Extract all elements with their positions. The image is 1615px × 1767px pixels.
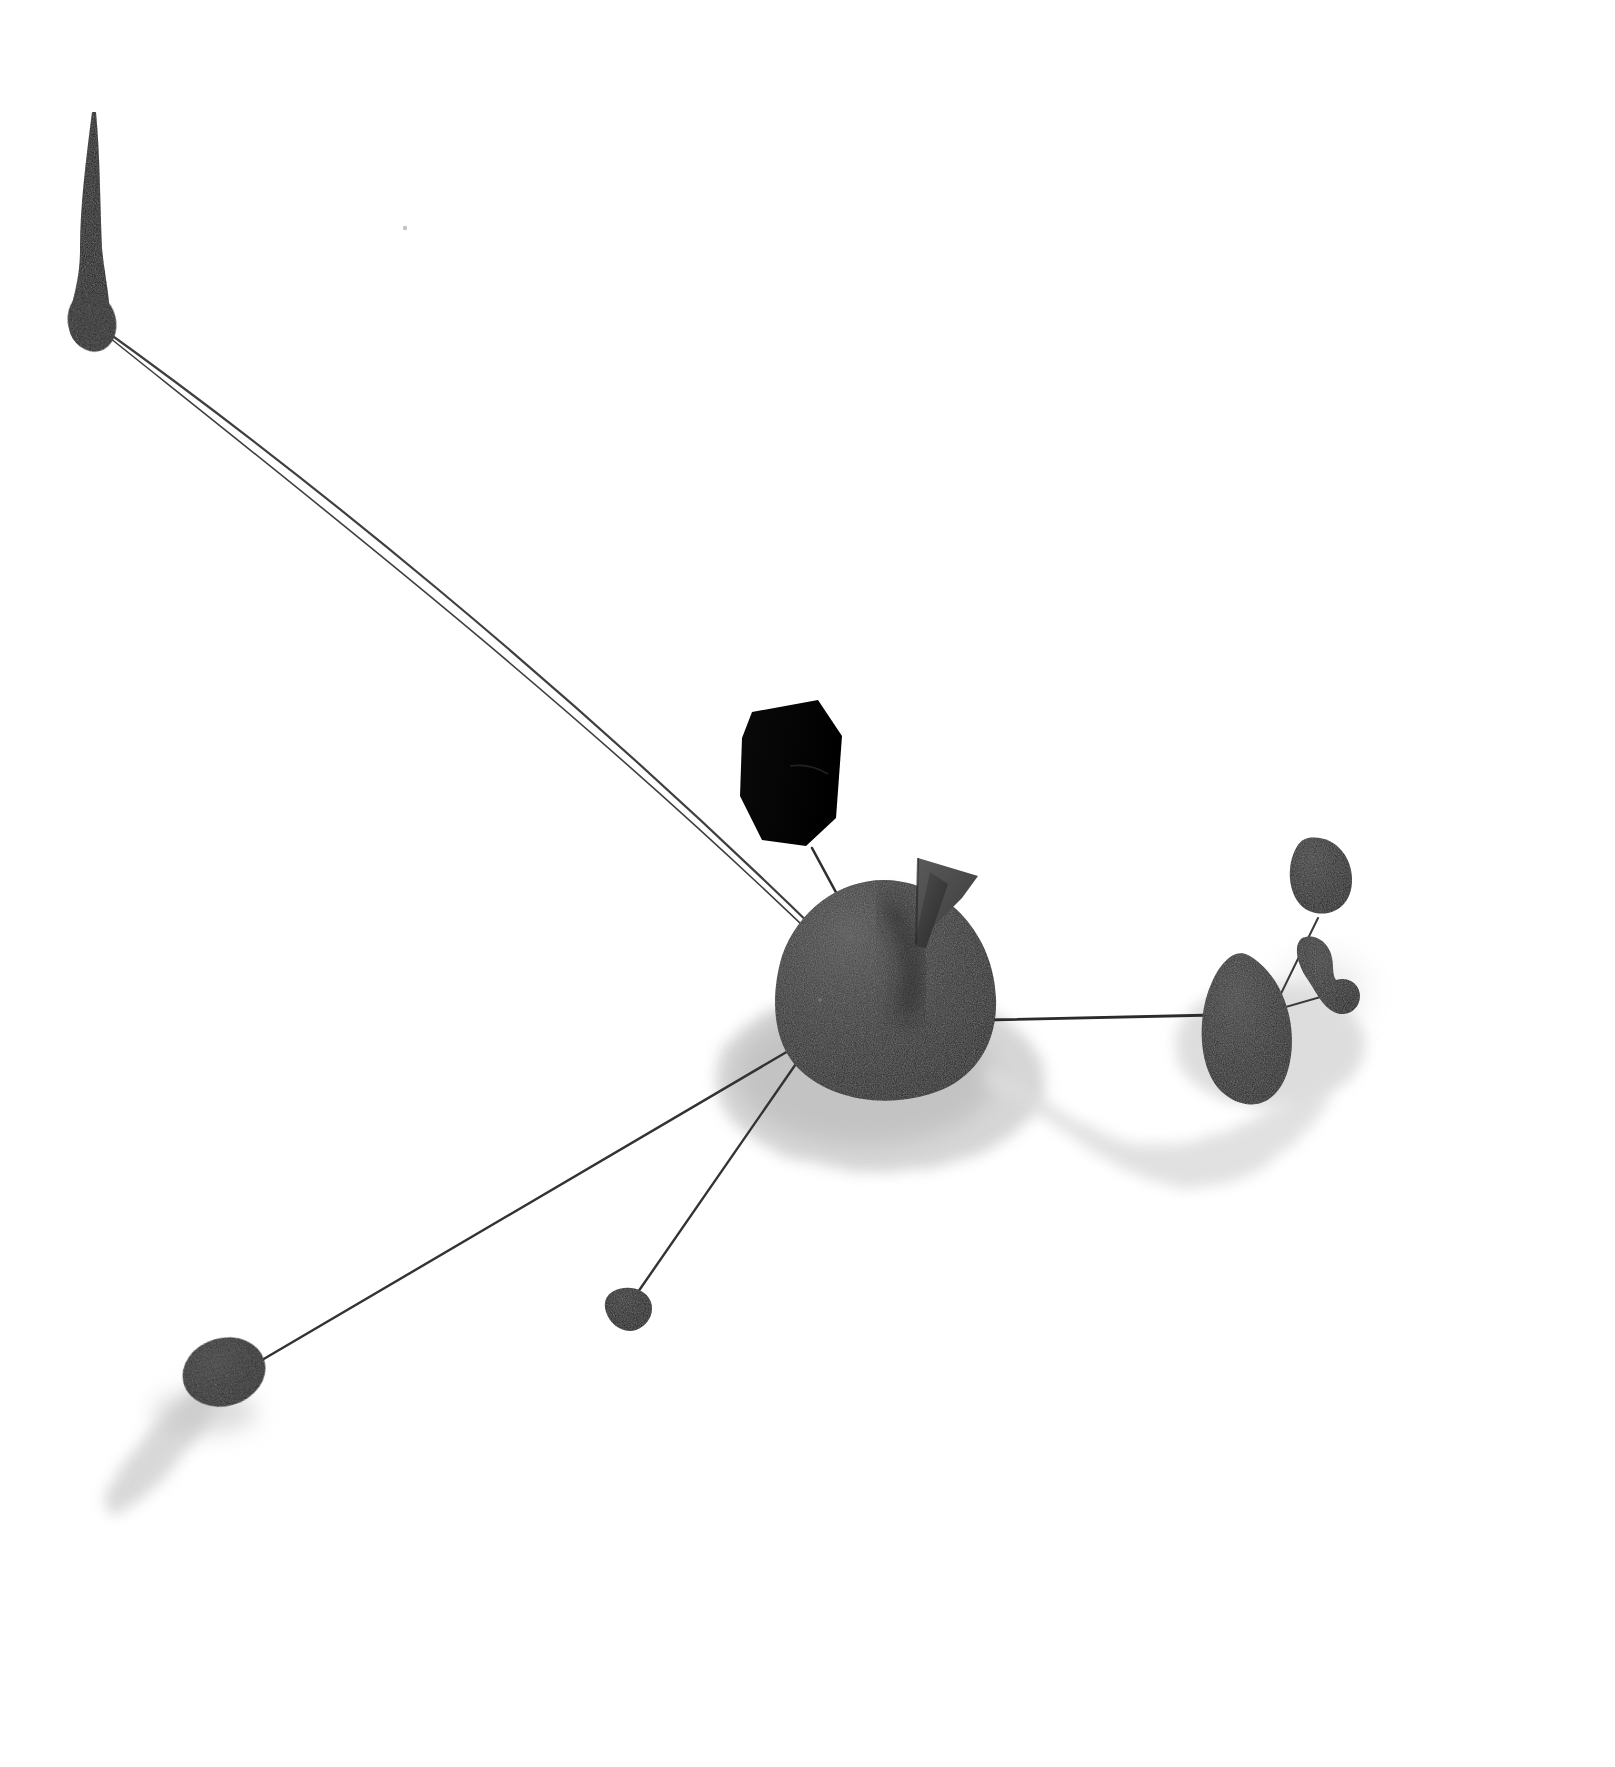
- sculpture-artboard: [0, 0, 1615, 1767]
- dome-speck: [818, 998, 822, 1002]
- dust-speck: [403, 226, 407, 230]
- background: [0, 0, 1615, 1767]
- sculpture-canvas: Abstract wire-and-mass sculpture sculptu…: [0, 0, 1615, 1767]
